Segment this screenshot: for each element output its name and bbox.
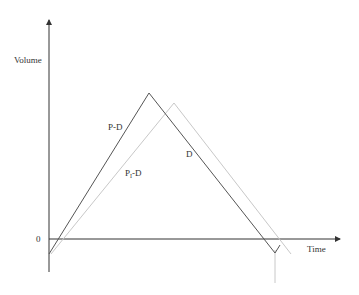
pi-d-curve <box>51 103 291 254</box>
p-d-curve <box>49 93 280 254</box>
y-axis-label: Volume <box>14 55 42 65</box>
pi-d-label: PI-D <box>125 168 142 179</box>
pi-d-label-tail: -D <box>132 168 142 178</box>
d-label: D <box>186 149 193 159</box>
x-axis-label: Time <box>307 244 326 254</box>
diagram-canvas: Volume 0 Time P-D D PI-D <box>0 0 359 295</box>
origin-label: 0 <box>36 234 41 244</box>
p-d-label: P-D <box>108 122 123 132</box>
